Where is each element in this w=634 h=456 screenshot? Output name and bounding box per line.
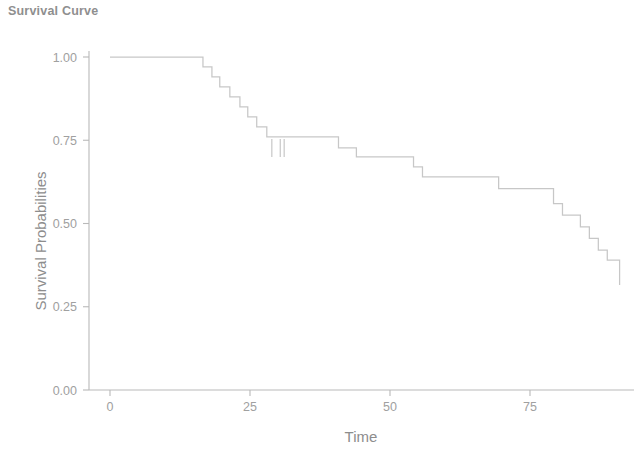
censoring-marks xyxy=(272,139,284,157)
y-tick-label: 0.50 xyxy=(53,217,77,231)
page-title: Survival Curve xyxy=(8,4,98,18)
x-axis-ticks: 0255075 xyxy=(107,390,537,414)
x-axis-title: Time xyxy=(345,428,378,445)
y-tick-label: 0.75 xyxy=(53,134,77,148)
x-tick-label: 50 xyxy=(383,400,397,414)
chart-svg: 0.000.250.500.751.00 Survival Probabilit… xyxy=(0,26,634,456)
x-tick-label: 25 xyxy=(243,400,257,414)
y-tick-label: 0.25 xyxy=(53,300,77,314)
x-tick-label: 0 xyxy=(107,400,114,414)
y-tick-label: 0.00 xyxy=(53,384,77,398)
y-tick-label: 1.00 xyxy=(53,51,77,65)
plot-series-group xyxy=(110,57,620,285)
y-axis: 0.000.250.500.751.00 Survival Probabilit… xyxy=(32,51,89,398)
survival-curve-chart: 0.000.250.500.751.00 Survival Probabilit… xyxy=(0,26,634,456)
y-axis-title: Survival Probabilities xyxy=(32,171,49,310)
y-axis-ticks: 0.000.250.500.751.00 xyxy=(53,51,89,398)
x-tick-label: 75 xyxy=(523,400,537,414)
x-axis: 0255075 Time xyxy=(89,390,634,445)
survival-step-line xyxy=(110,57,620,285)
